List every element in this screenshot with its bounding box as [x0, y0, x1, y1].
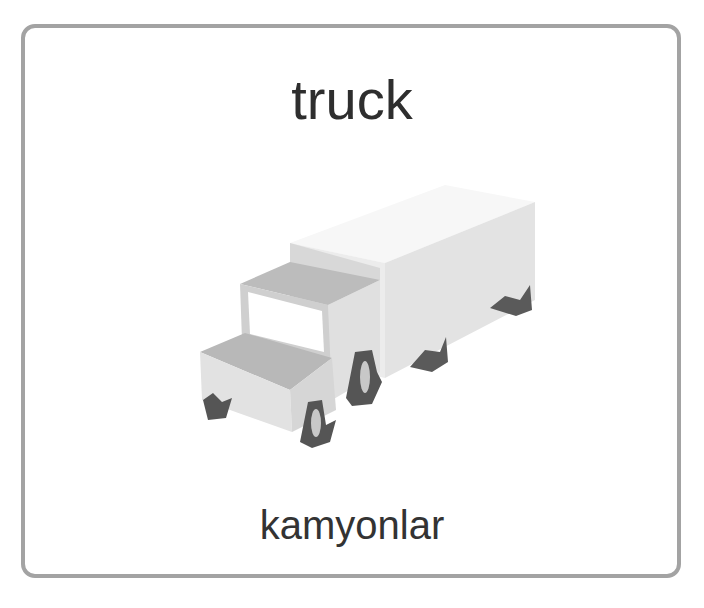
- word-translation: kamyonlar: [0, 500, 704, 550]
